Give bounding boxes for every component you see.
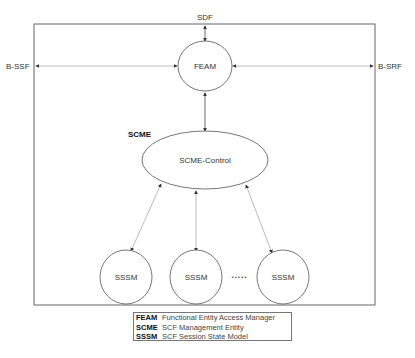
legend-text: SCF Session State Model (162, 332, 248, 341)
legend-row-sssm: SSSMSCF Session State Model (136, 332, 291, 342)
legend-row-scme: SCMESCF Management Entity (136, 323, 291, 333)
scme-group-label: SCME (128, 130, 152, 139)
scme-sssm3-arrow (246, 185, 272, 253)
b-srf-label: B-SRF (378, 62, 402, 71)
legend-text: SCF Management Entity (162, 323, 244, 332)
legend-abbr: FEAM (136, 313, 162, 323)
diagram-canvas: SDF B-SSF B-SRF FEAM SCME SCME-Control S… (0, 0, 415, 358)
legend-text: Functional Entity Access Manager (162, 313, 275, 322)
sssm-label-1: SSSM (115, 273, 138, 282)
sssm-label-3: SSSM (272, 273, 295, 282)
legend-box: FEAMFunctional Entity Access Manager SCM… (133, 312, 292, 341)
legend-abbr: SCME (136, 323, 162, 333)
scme-control-label: SCME-Control (179, 156, 231, 165)
scme-sssm1-arrow (131, 184, 161, 251)
legend-row-feam: FEAMFunctional Entity Access Manager (136, 313, 291, 323)
sssm-label-2: SSSM (185, 273, 208, 282)
b-ssf-label: B-SSF (6, 62, 30, 71)
feam-label: FEAM (194, 62, 217, 71)
ellipsis-indicator: • • • • • (232, 274, 247, 280)
sdf-label: SDF (197, 13, 213, 22)
legend-abbr: SSSM (136, 332, 162, 342)
